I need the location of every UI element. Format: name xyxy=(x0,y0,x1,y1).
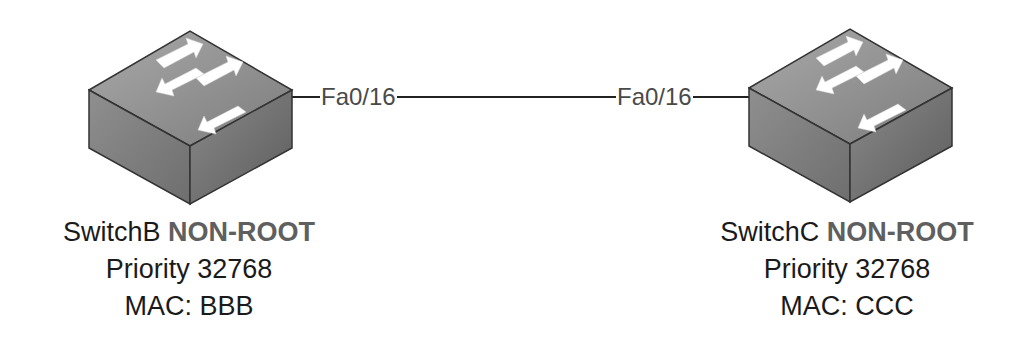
port-label-switchb: Fa0/16 xyxy=(320,80,397,114)
node-name: SwitchB xyxy=(63,217,161,247)
node-label-switchb: SwitchB NON-ROOT Priority 32768 MAC: BBB xyxy=(30,214,348,325)
node-mac: MAC: CCC xyxy=(688,288,1006,325)
switch-icon[interactable] xyxy=(88,30,294,206)
port-label-switchc: Fa0/16 xyxy=(616,80,693,114)
node-label-switchc: SwitchC NON-ROOT Priority 32768 MAC: CCC xyxy=(688,214,1006,325)
node-mac: MAC: BBB xyxy=(30,288,348,325)
node-role: NON-ROOT xyxy=(827,217,974,247)
node-role: NON-ROOT xyxy=(168,217,315,247)
node-name-line: SwitchB NON-ROOT xyxy=(30,214,348,251)
node-name-line: SwitchC NON-ROOT xyxy=(688,214,1006,251)
node-priority: Priority 32768 xyxy=(688,251,1006,288)
node-priority: Priority 32768 xyxy=(30,251,348,288)
switch-icon[interactable] xyxy=(748,28,954,204)
node-name: SwitchC xyxy=(720,217,819,247)
